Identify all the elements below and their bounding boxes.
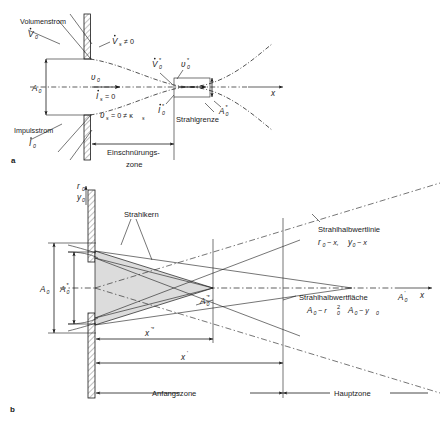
label-halbwertlinie-relation: r 0 ~ x, y 0 ~ x — [318, 238, 367, 248]
svg-text:': ' — [187, 350, 188, 356]
svg-text:0: 0 — [187, 64, 190, 70]
svg-text:A: A — [39, 285, 46, 294]
label-v0-star: V 0 * — [152, 57, 162, 70]
label-a0-prime-star: A 0 '* — [199, 294, 211, 307]
svg-text:0: 0 — [82, 197, 85, 203]
svg-text:0: 0 — [405, 297, 408, 303]
leader-strahlkern-2 — [136, 219, 152, 260]
svg-text:*: * — [187, 57, 190, 63]
panel-letter-b: b — [10, 405, 15, 414]
label-hauptzone: Hauptzone — [334, 389, 371, 398]
svg-text:0: 0 — [226, 111, 229, 117]
svg-text:0: 0 — [355, 310, 358, 316]
label-anfangszone: Anfangszone — [152, 389, 196, 398]
label-vs-not-zero: V s ≠ 0 — [112, 35, 134, 47]
label-a0-panel-b: A 0 — [39, 285, 50, 295]
svg-text:A: A — [397, 293, 404, 302]
svg-text:≠ 0: ≠ 0 — [124, 37, 134, 46]
label-y0-axis: y 0 — [76, 193, 85, 203]
svg-text:υ: υ — [100, 111, 105, 120]
label-x-axis-a: x — [270, 89, 276, 98]
svg-text:x: x — [144, 329, 150, 338]
halbwert-line-lower — [95, 288, 440, 393]
panel-letter-a: a — [11, 156, 16, 165]
svg-text:I: I — [96, 92, 99, 101]
svg-text:s: s — [142, 115, 145, 121]
svg-text:I: I — [158, 106, 161, 115]
leader-strahlkern-1 — [121, 219, 131, 245]
technical-diagram: Volumenstrom V 0 Impulsstrom I 0 V s ≠ 0… — [0, 0, 447, 421]
halbwert-line-upper — [95, 183, 440, 288]
label-strahlhalbwertlinie: Strahlhalbwertlinie — [318, 225, 380, 234]
svg-text:V: V — [152, 60, 159, 69]
label-impulsstrom: Impulsstrom — [14, 126, 53, 135]
label-u0-star: υ 0 * — [181, 57, 190, 70]
svg-text:0: 0 — [82, 186, 85, 192]
svg-text:': ' — [405, 290, 406, 296]
svg-text:0: 0 — [162, 110, 165, 116]
label-strahlhalbwertflaeche: Strahlhalbwertfläche A 0 ' — [299, 290, 408, 303]
leader-halbwertflaeche — [283, 296, 296, 300]
svg-text:s: s — [100, 96, 103, 102]
svg-text:0: 0 — [97, 77, 100, 83]
panel-b: r 0 y 0 A 0 A 0 * A 0 '* Strahlkern Stra… — [10, 182, 440, 414]
potential-core-shape — [95, 251, 213, 325]
label-volumenstrom-symbol: V 0 — [28, 28, 38, 40]
svg-text:0: 0 — [314, 310, 317, 316]
svg-text:V: V — [28, 30, 35, 39]
label-strahlgrenze: Strahlgrenze — [176, 115, 219, 124]
svg-text:υ: υ — [91, 73, 96, 82]
label-volumenstrom: Volumenstrom — [20, 17, 66, 26]
svg-text:0: 0 — [67, 289, 70, 295]
label-i0-star: I 0 * — [158, 103, 165, 116]
panel-a: Volumenstrom V 0 Impulsstrom I 0 V s ≠ 0… — [11, 14, 283, 169]
svg-text:*: * — [162, 103, 165, 109]
svg-text:A: A — [59, 285, 66, 294]
svg-text:0: 0 — [323, 242, 326, 248]
leader-vs — [99, 42, 110, 47]
leader-i0star — [166, 95, 174, 104]
svg-text:*: * — [159, 57, 162, 63]
svg-text:~ x: ~ x — [357, 238, 367, 247]
svg-text:Strahlhalbwertfläche: Strahlhalbwertfläche — [299, 293, 368, 302]
svg-text:~ y: ~ y — [359, 306, 369, 315]
label-xstar-dimension: x '* — [144, 326, 155, 338]
svg-text:A: A — [347, 306, 354, 315]
svg-text:s: s — [106, 115, 109, 121]
svg-text:0: 0 — [33, 143, 36, 149]
label-is-zero: I s = 0 — [96, 90, 115, 102]
label-einschnuerungs: Einschnürungs- — [107, 148, 160, 157]
svg-text:A: A — [31, 84, 38, 93]
leader-u0star — [177, 70, 183, 79]
figure-container: Volumenstrom V 0 Impulsstrom I 0 V s ≠ 0… — [0, 0, 447, 421]
svg-text:0: 0 — [35, 34, 38, 40]
label-r0-axis: r 0 — [77, 182, 85, 192]
svg-text:s: s — [119, 41, 122, 47]
svg-text:0: 0 — [207, 301, 210, 307]
svg-text:0: 0 — [376, 310, 379, 316]
label-flaeche-relation: A 0 ~ r 0 2 A 0 ~ y 0 — [306, 304, 379, 316]
label-us-equation: υ s = 0 ≠ κ s — [100, 111, 145, 121]
svg-text:υ: υ — [181, 60, 186, 69]
svg-text:= 0: = 0 — [105, 92, 115, 101]
svg-text:*: * — [226, 104, 229, 110]
svg-text:A: A — [306, 306, 313, 315]
svg-text:2: 2 — [337, 304, 340, 310]
svg-text:A: A — [199, 297, 206, 306]
svg-text:0: 0 — [337, 310, 340, 316]
label-zone: zone — [126, 160, 142, 169]
label-a0star-panel-b: A 0 * — [59, 282, 70, 295]
nozzle-plate-top-b — [88, 190, 95, 262]
nozzle-plate-bottom-b — [88, 313, 95, 398]
leader-strahlgrenze — [205, 103, 214, 112]
svg-text:'*: '* — [207, 294, 211, 300]
svg-text:~ r: ~ r — [318, 306, 327, 315]
label-strahlkern: Strahlkern — [124, 210, 159, 219]
label-a0-panel-a: A 0 — [31, 84, 42, 94]
svg-text:I: I — [29, 139, 32, 148]
leader-v0star — [160, 73, 172, 84]
svg-text:r: r — [77, 182, 80, 191]
label-u0: υ 0 — [91, 73, 100, 83]
svg-text:= 0 ≠ κ: = 0 ≠ κ — [111, 111, 133, 120]
svg-text:V: V — [112, 37, 119, 46]
